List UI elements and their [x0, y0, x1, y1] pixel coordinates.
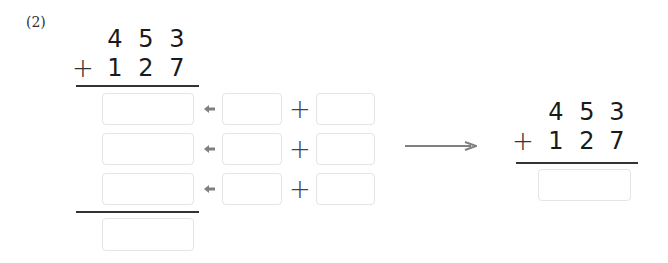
vertical-addend2-tens: 2: [577, 129, 597, 153]
vertical-divider: [516, 162, 638, 164]
sum-divider-top: [76, 85, 199, 87]
vertical-addend1-hundreds: 4: [546, 100, 566, 124]
addend1-ones: 3: [167, 27, 187, 51]
sum-divider-bottom: [76, 211, 199, 213]
partial-sum-box-1[interactable]: [102, 93, 194, 125]
vertical-plus-operator: +: [512, 129, 534, 153]
vertical-addend2-ones: 7: [607, 129, 627, 153]
addend2-ones: 7: [167, 56, 187, 80]
addend2-hundreds: 1: [105, 56, 125, 80]
left-operand-box-1[interactable]: [222, 93, 282, 125]
left-operand-box-2[interactable]: [222, 133, 282, 165]
left-arrow-icon: [204, 145, 215, 153]
vertical-addend1-ones: 3: [607, 100, 627, 124]
vertical-answer-box[interactable]: [538, 169, 631, 201]
plus-icon: +: [289, 176, 311, 202]
plus-icon: +: [289, 96, 311, 122]
partial-sum-box-3[interactable]: [102, 173, 194, 205]
right-arrow-icon: [405, 141, 477, 151]
addend1-tens: 5: [136, 27, 156, 51]
addend2-tens: 2: [136, 56, 156, 80]
left-arrow-icon: [204, 185, 215, 193]
vertical-addend2-hundreds: 1: [546, 129, 566, 153]
partial-sum-box-2[interactable]: [102, 133, 194, 165]
left-operand-box-3[interactable]: [222, 173, 282, 205]
right-operand-box-2[interactable]: [316, 133, 375, 165]
right-operand-box-3[interactable]: [316, 173, 375, 205]
right-operand-box-1[interactable]: [316, 93, 375, 125]
left-arrow-icon: [204, 105, 215, 113]
plus-icon: +: [289, 136, 311, 162]
vertical-addend1-tens: 5: [577, 100, 597, 124]
plus-operator: +: [72, 56, 94, 80]
problem-label: (2): [26, 14, 46, 30]
addend1-hundreds: 4: [105, 27, 125, 51]
total-box[interactable]: [102, 218, 194, 251]
